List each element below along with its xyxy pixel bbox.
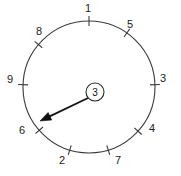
center-badge-label: 3: [92, 87, 98, 98]
dial-tick-label-group: 153472698: [7, 2, 166, 166]
dial-tick-label-6: 6: [19, 124, 25, 136]
dial-tick-label-4: 4: [149, 122, 155, 134]
dial-tick-label-5: 5: [127, 18, 133, 30]
dial-tick-label-8: 8: [36, 25, 42, 37]
dial-tick-label-3: 3: [160, 72, 166, 84]
dial-tick-label-7: 7: [115, 154, 121, 166]
dial-diagram-canvas: 153472698 3: [0, 0, 181, 176]
dial-tick-label-1: 1: [85, 2, 91, 14]
dial-tick-label-9: 9: [7, 73, 13, 85]
pointer-arrowhead-icon: [40, 112, 52, 121]
dial-diagram: 153472698 3: [0, 0, 181, 176]
pointer-arrow-shaft: [48, 98, 88, 117]
dial-tick-5: [124, 29, 130, 37]
dial-tick-label-2: 2: [59, 154, 65, 166]
